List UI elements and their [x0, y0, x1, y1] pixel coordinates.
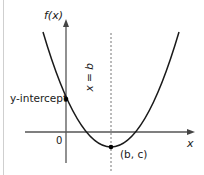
- y-axis-label: f(x): [44, 10, 63, 21]
- axis-of-symmetry-label: x = b: [84, 63, 95, 91]
- vertex-point: [109, 145, 114, 150]
- x-axis-label: x: [187, 138, 194, 149]
- y-axis-arrow-icon: [63, 19, 69, 27]
- vertex-label: (b, c): [120, 149, 147, 160]
- parabola-diagram: f(x) x 0 y-intercept x = b (b, c): [0, 0, 204, 175]
- y-intercept-label: y-intercept: [10, 93, 67, 104]
- origin-label: 0: [56, 136, 62, 146]
- x-axis-arrow-icon: [187, 129, 195, 135]
- graph-canvas: [0, 0, 204, 175]
